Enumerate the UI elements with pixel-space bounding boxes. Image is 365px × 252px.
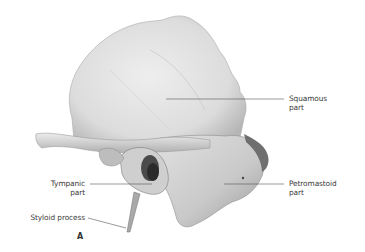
label-tympanic-line1: Tympanic [30,179,85,188]
label-tympanic-line2: part [30,188,85,197]
label-styloid-line1: Styloid process [10,213,85,222]
label-squamous-line2: part [289,103,327,112]
panel-letter: A [77,232,83,241]
styloid-process-shape [127,192,140,232]
label-squamous-line1: Squamous [289,94,327,103]
label-tympanic-part: Tympanic part [30,179,85,197]
label-styloid-process: Styloid process [10,213,85,222]
label-petromastoid-line2: part [289,188,337,197]
squamous-part-shape [69,16,246,150]
label-petromastoid-line1: Petromastoid [289,179,337,188]
label-squamous-part: Squamous part [289,94,327,112]
leader-line-styloid [88,218,126,228]
label-petromastoid-part: Petromastoid part [289,179,337,197]
